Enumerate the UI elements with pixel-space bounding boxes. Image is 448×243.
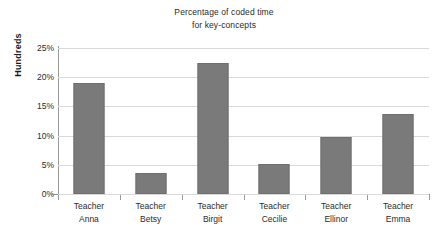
bar-slot: [305, 48, 367, 194]
y-axis-tick-label: 0%: [14, 189, 54, 199]
x-axis-tick-label: TeacherBirgit: [182, 200, 244, 226]
plot-area: [58, 48, 429, 194]
x-axis-tick-mark: [244, 195, 245, 200]
x-axis-tick-mark: [429, 195, 430, 200]
x-axis-tick-label-line-2: Anna: [58, 213, 120, 226]
bar-slot: [244, 48, 306, 194]
bar-chart: Percentage of coded time for key-concept…: [0, 0, 448, 243]
bar-slot: [120, 48, 182, 194]
x-axis-tick-label: TeacherAnna: [58, 200, 120, 226]
x-axis-tick-label-line-2: Ellinor: [305, 213, 367, 226]
bar-slot: [182, 48, 244, 194]
chart-title-line-2: for key-concepts: [0, 19, 448, 32]
x-axis-tick-label: TeacherEllinor: [305, 200, 367, 226]
chart-title-line-1: Percentage of coded time: [0, 6, 448, 19]
bar[interactable]: [135, 173, 166, 194]
x-axis-tick-labels: TeacherAnnaTeacherBetsyTeacherBirgitTeac…: [58, 200, 429, 240]
y-axis-tick-labels: 0%5%10%15%20%25%: [10, 0, 54, 243]
y-axis-tick-label: 25%: [14, 43, 54, 53]
bar-slot: [367, 48, 429, 194]
bar[interactable]: [73, 83, 104, 194]
y-axis-tick-label: 10%: [14, 131, 54, 141]
x-axis-tick-label-line-2: Betsy: [120, 213, 182, 226]
x-axis-tick-mark: [58, 195, 59, 200]
x-axis-tick-label-line-1: Teacher: [58, 200, 120, 213]
x-axis-tick-label-line-2: Emma: [367, 213, 429, 226]
chart-title: Percentage of coded time for key-concept…: [0, 6, 448, 32]
x-axis-tick-label: TeacherCecilie: [244, 200, 306, 226]
x-axis-tick-label: TeacherBetsy: [120, 200, 182, 226]
y-axis-tick-label: 20%: [14, 72, 54, 82]
y-axis-tick-label: 5%: [14, 160, 54, 170]
x-axis-tick-label-line-2: Cecilie: [244, 213, 306, 226]
bar[interactable]: [259, 164, 290, 194]
x-axis-tick-mark: [182, 195, 183, 200]
x-axis-tick-label-line-1: Teacher: [244, 200, 306, 213]
y-axis-tick-label: 15%: [14, 101, 54, 111]
bar[interactable]: [321, 137, 352, 194]
x-axis-tick-mark: [120, 195, 121, 200]
bar[interactable]: [197, 63, 228, 194]
x-axis-tick-label: TeacherEmma: [367, 200, 429, 226]
x-axis-tick-mark: [305, 195, 306, 200]
x-axis-tick-label-line-1: Teacher: [120, 200, 182, 213]
bar-slot: [58, 48, 120, 194]
x-axis-tick-label-line-1: Teacher: [182, 200, 244, 213]
x-axis-tick-label-line-1: Teacher: [305, 200, 367, 213]
x-axis-tick-label-line-2: Birgit: [182, 213, 244, 226]
bar[interactable]: [383, 114, 414, 194]
x-axis-tick-mark: [367, 195, 368, 200]
x-axis-tick-label-line-1: Teacher: [367, 200, 429, 213]
